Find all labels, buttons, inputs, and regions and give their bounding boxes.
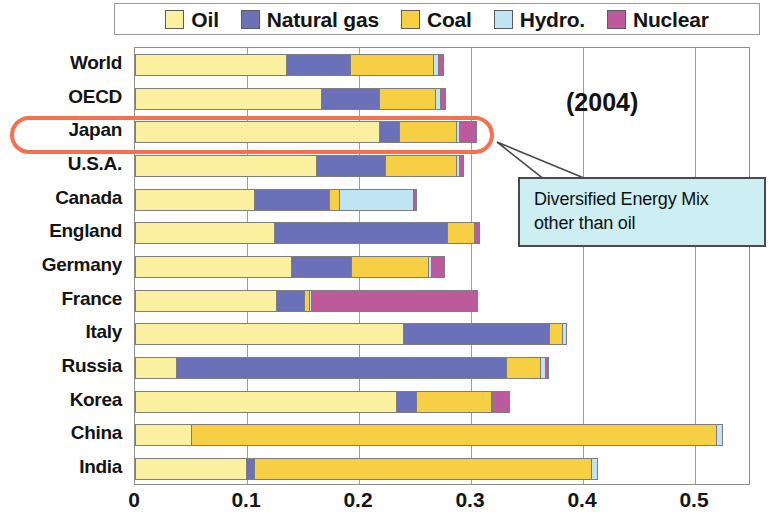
bar-segment-coal [254,458,591,480]
legend-item-oil: Oil [165,9,218,30]
x-tick-label: 0 [128,488,140,512]
callout-box: Diversified Energy Mix other than oil [518,177,766,247]
bar-segment-coal [351,256,428,278]
legend-swatch-icon [607,10,626,29]
bar-segment-oil [135,357,176,379]
bar-segment-coal [447,222,474,244]
bar-segment-oil [135,88,321,110]
legend-label: Nuclear [633,9,709,30]
bar-segment-oil [135,222,274,244]
x-tick-label: 0.5 [679,488,708,512]
legend-swatch-icon [401,10,420,29]
bar-row [135,256,749,278]
stacked-bar [135,222,480,244]
x-tick-label: 0.3 [455,488,484,512]
bar-segment-oil [135,391,396,413]
bar-segment-natural-gas [403,323,550,345]
legend-swatch-icon [241,10,260,29]
legend-swatch-icon [494,10,513,29]
category-label-u-s-a: U.S.A. [68,153,122,175]
bar-segment-coal [549,323,561,345]
bar-segment-natural-gas [176,357,505,379]
category-label-france: France [61,288,122,310]
category-label-india: India [79,456,122,478]
legend-label: Coal [427,9,472,30]
bar-row [135,424,749,446]
stacked-bar [135,424,723,446]
x-tick-label: 0.1 [231,488,260,512]
bar-row [135,54,749,76]
bar-rows [135,48,749,484]
stacked-bar [135,290,478,312]
callout-line-1: Diversified Energy Mix [534,188,764,212]
category-label-canada: Canada [55,187,122,209]
x-tick-label: 0.4 [567,488,596,512]
bar-segment-hydro [339,189,413,211]
bar-segment-coal [329,189,339,211]
stacked-bar [135,323,567,345]
stacked-bar [135,391,510,413]
category-label-england: England [49,220,122,242]
stacked-bar [135,155,464,177]
bar-row [135,458,749,480]
bar-segment-coal [379,88,435,110]
bar-segment-natural-gas [274,222,448,244]
bar-row [135,357,749,379]
bar-segment-hydro [591,458,598,480]
bar-segment-natural-gas [316,155,384,177]
bar-segment-coal [385,155,457,177]
stacked-bar [135,88,446,110]
bar-segment-coal [416,391,491,413]
chart-legend: OilNatural gasCoalHydro.Nuclear [114,3,760,35]
legend-label: Natural gas [267,9,379,30]
bar-segment-oil [135,256,291,278]
value-axis-ticks: 00.10.20.30.40.5 [134,488,750,518]
energy-mix-chart: OilNatural gasCoalHydro.Nuclear WorldOEC… [0,0,774,526]
bar-segment-nuclear [431,256,446,278]
bar-segment-natural-gas [286,54,350,76]
bar-row [135,290,749,312]
bar-segment-natural-gas [291,256,351,278]
japan-highlight-oval [10,116,494,154]
bar-segment-coal [350,54,433,76]
bar-segment-nuclear [475,222,479,244]
stacked-bar [135,458,598,480]
category-label-oecd: OECD [68,86,122,108]
stacked-bar [135,357,549,379]
bar-segment-hydro [562,323,568,345]
legend-label: Oil [191,9,218,30]
plot-area [134,47,750,485]
bar-row [135,323,749,345]
legend-item-nuclear: Nuclear [607,9,709,30]
stacked-bar [135,256,445,278]
year-annotation: (2004) [566,88,638,117]
category-label-italy: Italy [85,321,122,343]
bar-segment-natural-gas [321,88,379,110]
stacked-bar [135,189,417,211]
bar-segment-nuclear [459,155,465,177]
stacked-bar [135,54,444,76]
legend-swatch-icon [165,10,184,29]
category-label-korea: Korea [70,389,122,411]
bar-segment-oil [135,189,254,211]
bar-segment-nuclear [492,391,510,413]
bar-segment-natural-gas [396,391,416,413]
bar-segment-coal [191,424,716,446]
bar-segment-oil [135,54,286,76]
category-label-russia: Russia [61,355,122,377]
category-label-germany: Germany [42,254,122,276]
bar-segment-natural-gas [276,290,304,312]
x-tick-label: 0.2 [343,488,372,512]
legend-item-natural-gas: Natural gas [241,9,379,30]
bar-segment-oil [135,424,191,446]
bar-segment-oil [135,155,316,177]
bar-segment-nuclear [545,357,549,379]
bar-row [135,155,749,177]
bar-segment-nuclear [311,290,478,312]
bar-segment-nuclear [413,189,417,211]
bar-segment-nuclear [438,54,444,76]
callout-line-2: other than oil [534,212,764,236]
category-axis-labels: WorldOECDJapanU.S.A.CanadaEnglandGermany… [0,47,128,485]
legend-item-hydro: Hydro. [494,9,585,30]
category-label-world: World [70,52,122,74]
